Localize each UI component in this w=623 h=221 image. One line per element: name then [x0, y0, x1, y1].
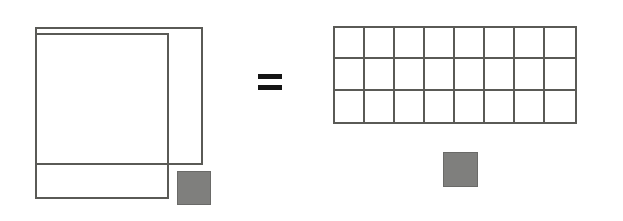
grid-cell	[425, 59, 455, 90]
grid-cell	[485, 91, 515, 122]
grid-cell	[515, 91, 545, 122]
grid-cell	[485, 59, 515, 90]
grid-cell	[395, 91, 425, 122]
grid-cell	[545, 91, 575, 122]
diagram-canvas	[0, 0, 623, 221]
grid-cell	[425, 91, 455, 122]
grid-cell	[365, 28, 395, 59]
grid-cell	[455, 91, 485, 122]
grid-cell	[395, 59, 425, 90]
grid-cell	[455, 59, 485, 90]
grid-cell	[395, 28, 425, 59]
grid-cell	[515, 59, 545, 90]
grid-cell	[425, 28, 455, 59]
grid-cell	[545, 28, 575, 59]
grid-cell	[545, 59, 575, 90]
rectangle-grid	[333, 26, 577, 124]
grid-cell	[335, 28, 365, 59]
grid-cell	[455, 28, 485, 59]
grid-cell	[515, 28, 545, 59]
grid-cell	[365, 59, 395, 90]
right-diagram-group	[0, 0, 623, 221]
grid-cell	[335, 59, 365, 90]
grid-cell	[335, 91, 365, 122]
small-gray-square-right	[443, 152, 478, 187]
grid-cell	[485, 28, 515, 59]
grid-cell	[365, 91, 395, 122]
